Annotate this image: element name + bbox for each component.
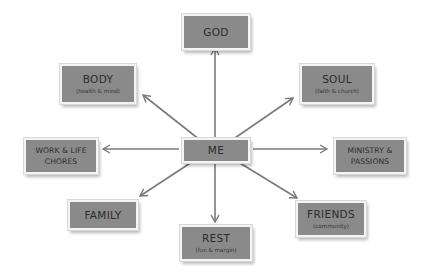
arrow-me-soul xyxy=(232,98,293,140)
node-rest: REST (fun & margin) xyxy=(180,225,252,261)
node-body-title: BODY xyxy=(83,73,113,86)
arrow-me-friends xyxy=(235,160,297,198)
arrow-me-family xyxy=(140,160,195,196)
node-god: GOD xyxy=(182,14,250,50)
node-body: BODY (health & mind) xyxy=(60,64,136,104)
arrow-me-body xyxy=(143,95,200,140)
node-family: FAMILY xyxy=(68,200,138,230)
node-work-life-chores: WORK & LIFE CHORES xyxy=(24,138,98,174)
node-me-title: ME xyxy=(208,144,224,157)
node-rest-subtitle: (fun & margin) xyxy=(195,246,236,255)
node-ministry-passions: MINISTRY & PASSIONS xyxy=(334,138,406,174)
node-friends-subtitle: (community) xyxy=(313,222,349,231)
node-work-title-line1: WORK & LIFE xyxy=(35,145,86,156)
node-soul-title: SOUL xyxy=(322,73,352,86)
node-me: ME xyxy=(182,138,250,163)
node-work-title-line2: CHORES xyxy=(45,156,77,167)
node-friends-title: FRIENDS xyxy=(307,208,355,221)
node-ministry-title-line1: MINISTRY & xyxy=(348,145,393,156)
node-god-title: GOD xyxy=(203,26,228,39)
node-ministry-title-line2: PASSIONS xyxy=(351,156,389,167)
node-soul-subtitle: (faith & church) xyxy=(315,87,359,96)
node-rest-title: REST xyxy=(202,232,230,245)
node-body-subtitle: (health & mind) xyxy=(76,87,120,96)
node-soul: SOUL (faith & church) xyxy=(300,64,374,104)
node-family-title: FAMILY xyxy=(84,209,121,222)
node-friends: FRIENDS (community) xyxy=(296,201,366,237)
